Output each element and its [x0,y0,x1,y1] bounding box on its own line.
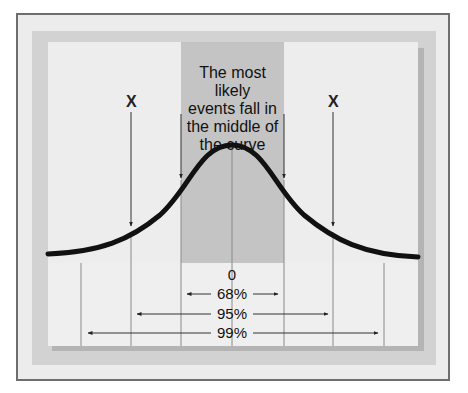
right-outlier-label: X [328,93,339,111]
caption-text: The most likely events fall in the middl… [181,64,284,154]
range-99-label: 99% [202,324,262,341]
caption-line: events fall in [181,100,284,118]
range-68-label: 68% [202,285,262,302]
range-95-label: 95% [202,305,262,322]
center-zero-label: 0 [202,266,262,283]
caption-line: The most likely [181,64,284,100]
left-outlier-label: X [126,93,137,111]
caption-line: the curve [181,136,284,154]
caption-line: the middle of [181,118,284,136]
